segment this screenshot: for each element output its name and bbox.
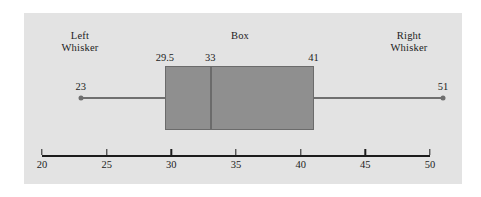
figure-panel: Left Whisker Box Right Whisker 23 29.5 3… [24, 13, 462, 184]
x-axis-tick-label: 30 [166, 159, 177, 171]
median-line [210, 66, 212, 130]
left-whisker-annotation: Left Whisker [62, 30, 99, 54]
value-label-q1: 29.5 [156, 52, 174, 64]
x-axis-tick [106, 149, 107, 155]
min-whisker-endpoint [78, 96, 83, 101]
right-whisker-annotation: Right Whisker [391, 30, 428, 54]
plot-area: Left Whisker Box Right Whisker 23 29.5 3… [24, 13, 462, 184]
x-axis-tick [365, 149, 366, 155]
value-label-median: 33 [205, 52, 216, 64]
x-axis-tick [41, 149, 42, 155]
interquartile-box [165, 66, 314, 130]
x-axis-tick [235, 149, 236, 155]
x-axis-tick-label: 50 [425, 159, 436, 171]
value-label-min: 23 [76, 81, 87, 93]
x-axis-line [42, 155, 430, 157]
x-axis-tick [429, 149, 430, 155]
value-label-q3: 41 [308, 52, 319, 64]
x-axis-tick [300, 149, 301, 155]
max-whisker-endpoint [440, 96, 445, 101]
value-label-max: 51 [438, 81, 449, 93]
x-axis-tick-label: 45 [360, 159, 371, 171]
boxplot-figure: Left Whisker Box Right Whisker 23 29.5 3… [0, 0, 481, 197]
box-annotation: Box [231, 30, 249, 42]
x-axis-tick-label: 35 [231, 159, 242, 171]
x-axis-tick-label: 20 [37, 159, 48, 171]
x-axis-tick-label: 25 [101, 159, 112, 171]
x-axis-tick-label: 40 [295, 159, 306, 171]
x-axis-tick [171, 149, 172, 155]
